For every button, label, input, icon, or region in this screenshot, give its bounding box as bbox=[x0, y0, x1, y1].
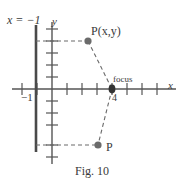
upper-p-to-focus-segment bbox=[88, 41, 112, 89]
focus-x-tick-label: 4 bbox=[112, 93, 117, 103]
directrix-equation-label: x = −1 bbox=[7, 14, 41, 26]
x-axis-label: x bbox=[168, 80, 173, 91]
upper-point-label: P(x,y) bbox=[91, 25, 121, 37]
y-axis-label: y bbox=[52, 16, 57, 27]
lower-point-marker bbox=[94, 141, 101, 148]
upper-point-marker bbox=[84, 37, 91, 44]
parabola-figure: x = −1 y x P(x,y) P focus 4 −1 Fig. 10 bbox=[0, 0, 184, 184]
lower-point-label: P bbox=[106, 141, 113, 153]
focus-to-lower-p-segment bbox=[98, 89, 112, 145]
focus-label: focus bbox=[113, 75, 133, 84]
figure-caption: Fig. 10 bbox=[0, 164, 184, 179]
directrix-x-tick-label: −1 bbox=[21, 92, 33, 103]
